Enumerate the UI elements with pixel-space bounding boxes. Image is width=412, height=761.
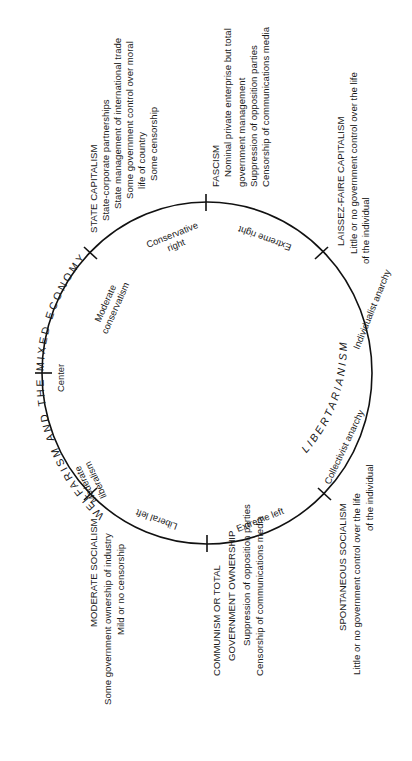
communism-line: GOVERNMENT OWNERSHIP bbox=[226, 531, 237, 661]
svg-text:Extreme right: Extreme right bbox=[236, 224, 293, 254]
svg-text:Liberal left: Liberal left bbox=[134, 507, 179, 532]
laissez-faire-title: LAISSEZ-FAIRE CAPITALISM bbox=[335, 117, 346, 246]
state-capitalism-line: State-corporate partnerships bbox=[100, 99, 111, 221]
extreme-right-label: Extreme right bbox=[236, 224, 293, 254]
fascism-line: Suppression of opposition parties bbox=[248, 45, 259, 187]
communism-line: Censorship of communications media bbox=[254, 515, 265, 676]
fascism-line: government management bbox=[236, 77, 247, 187]
center-label: Center bbox=[55, 364, 66, 392]
fascism-block: FASCISM Nominal private enterprise but t… bbox=[210, 26, 271, 187]
svg-text:Individualist anarchy: Individualist anarchy bbox=[351, 268, 393, 351]
moderate-conservatism-label: Moderate conservatism bbox=[89, 276, 132, 336]
liberal-left-label: Liberal left bbox=[134, 507, 179, 532]
moderate-socialism-line: Some government ownership of industry bbox=[102, 533, 113, 705]
svg-text:Center: Center bbox=[55, 364, 66, 392]
fascism-line: Nominal private enterprise but total bbox=[222, 28, 233, 177]
state-capitalism-block: STATE CAPITALISM State-corporate partner… bbox=[88, 38, 159, 233]
laissez-faire-line: Little or no government control over the… bbox=[348, 72, 359, 254]
fascism-title: FASCISM bbox=[210, 145, 221, 187]
fascism-line: Censorship of communications media bbox=[260, 26, 271, 187]
conservative-right-label: Conservative right bbox=[145, 219, 204, 260]
moderate-socialism-block: MODERATE SOCIALISM Some government owner… bbox=[88, 518, 126, 705]
state-capitalism-line: State management of international trade bbox=[112, 38, 123, 209]
individualist-anarchy-label: Individualist anarchy bbox=[351, 268, 393, 351]
state-capitalism-line: life of country bbox=[136, 132, 147, 189]
communism-title: COMMUNISM OR TOTAL bbox=[211, 564, 222, 676]
state-capitalism-line: Some censorship bbox=[148, 107, 159, 181]
spontaneous-socialism-line: Little or no government control over the… bbox=[351, 493, 362, 675]
laissez-faire-block: LAISSEZ-FAIRE CAPITALISM Little or no go… bbox=[335, 72, 371, 264]
laissez-faire-line: of the individual bbox=[360, 197, 371, 264]
state-capitalism-line: Some government control over moral bbox=[124, 41, 135, 199]
spontaneous-socialism-line: of the individual bbox=[364, 464, 375, 531]
moderate-socialism-line: Mild or no censorship bbox=[115, 544, 126, 635]
state-capitalism-title: STATE CAPITALISM bbox=[88, 145, 99, 234]
spontaneous-socialism-title: SPONTANEOUS SOCIALISM bbox=[337, 503, 348, 631]
political-spectrum-diagram: STATE CAPITALISM State-corporate partner… bbox=[0, 0, 412, 761]
moderate-socialism-title: MODERATE SOCIALISM bbox=[88, 518, 99, 627]
spontaneous-socialism-block: SPONTANEOUS SOCIALISM Little or no gover… bbox=[337, 464, 375, 675]
